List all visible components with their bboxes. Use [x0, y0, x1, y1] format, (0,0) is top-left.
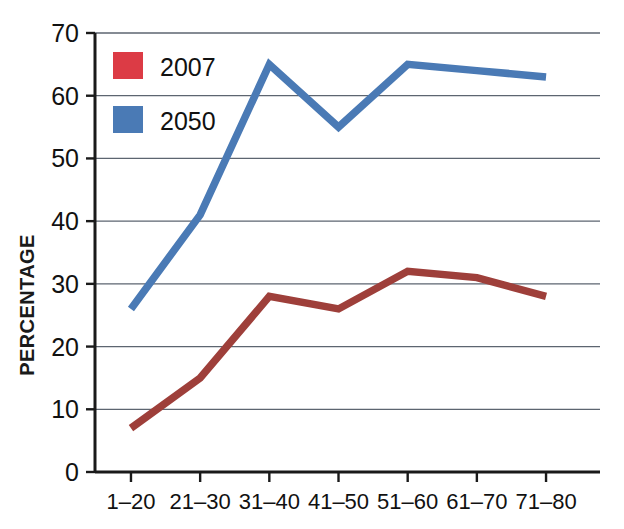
legend-swatch-2007 — [113, 52, 143, 79]
y-tick-label: 70 — [51, 19, 79, 47]
y-tick-label: 0 — [65, 458, 79, 486]
line-chart-figure: 010203040506070 1–2021–3031–4041–5051–60… — [0, 0, 624, 529]
y-tick-label: 40 — [51, 207, 79, 235]
x-tick-label: 31–40 — [239, 489, 300, 514]
legend-swatch-2050 — [113, 106, 143, 133]
chart-canvas: 010203040506070 1–2021–3031–4041–5051–60… — [0, 0, 624, 529]
legend-label-2050: 2050 — [160, 107, 216, 135]
y-tick-label: 20 — [51, 333, 79, 361]
y-tick-label: 60 — [51, 82, 79, 110]
x-tick-label: 61–70 — [446, 489, 507, 514]
x-tick-label: 71–80 — [515, 489, 576, 514]
x-axis-tick-labels: 1–2021–3031–4041–5051–6061–7071–80 — [106, 489, 576, 514]
y-axis-title: PERCENTAGE — [16, 234, 38, 375]
y-tick-label: 30 — [51, 270, 79, 298]
x-tick-label: 21–30 — [170, 489, 231, 514]
x-tick-label: 51–60 — [377, 489, 438, 514]
x-tick-label: 41–50 — [308, 489, 369, 514]
y-tick-label: 10 — [51, 395, 79, 423]
x-tick-label: 1–20 — [106, 489, 155, 514]
y-tick-label: 50 — [51, 144, 79, 172]
legend-label-2007: 2007 — [160, 53, 216, 81]
